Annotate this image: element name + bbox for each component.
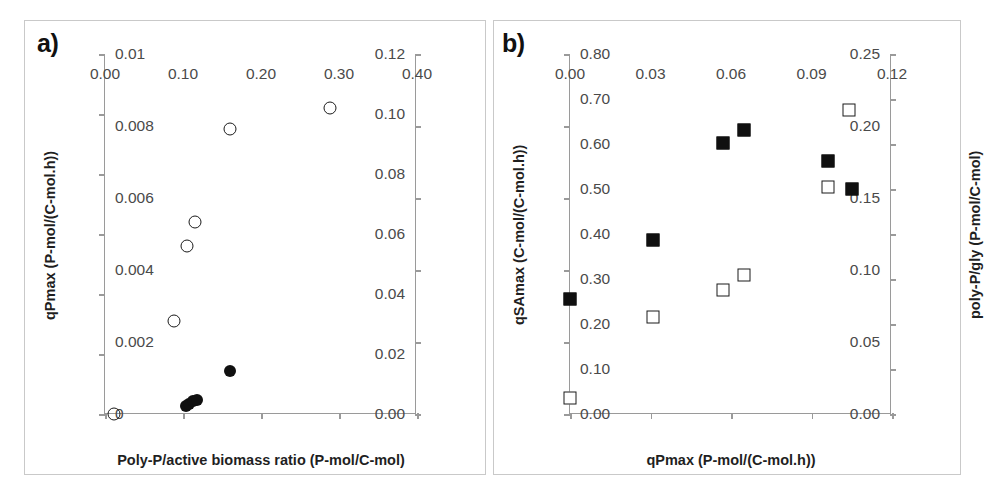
panel-a-y-left-tick-label: 0.04 bbox=[375, 286, 405, 302]
panel-a-data-point-open-circle bbox=[108, 408, 121, 421]
panel-b-y-right-tick bbox=[890, 234, 896, 236]
panel-b-y-right-tick bbox=[890, 99, 896, 101]
panel-b-y-left-tick-label: 0.25 bbox=[850, 46, 880, 62]
panel-b-x-tick-label: 0.09 bbox=[796, 66, 826, 82]
panel-b-y-right-tick-label: 0.50 bbox=[580, 181, 610, 197]
panel-b-x-tick-label: 0.03 bbox=[635, 66, 665, 82]
panel-a-data-point-open-circle bbox=[167, 315, 180, 328]
panel-a-y-right-tick bbox=[415, 54, 421, 56]
panel-b-y-right-tick bbox=[890, 144, 896, 146]
panel-a-y-left-tick-label: 0.02 bbox=[375, 346, 405, 362]
panel-a-y-left-tick-label: 0.08 bbox=[375, 166, 405, 182]
panel-b-plot-area: 0.000.050.100.150.200.250.000.100.200.30… bbox=[569, 54, 891, 414]
panel-a-x-tick-label: 0.20 bbox=[246, 66, 276, 82]
panel-a-y-axis-left-title: qPmax (P-mol/(C-mol.h)) bbox=[43, 150, 58, 319]
panel-a-y-left-tick-label: 0.10 bbox=[375, 106, 405, 122]
panel-b-data-point-open-square bbox=[821, 180, 834, 193]
panel-b-y-left-tick bbox=[564, 270, 570, 272]
panel-b-data-point-filled-square bbox=[716, 137, 729, 150]
panel-b-y-axis-right-title: poly-P/gly (P-mol/C-mol) bbox=[968, 151, 983, 319]
panel-a-x-tick bbox=[261, 413, 263, 419]
panel-b-y-right-tick bbox=[890, 369, 896, 371]
panel-b-y-right-tick-label: 0.10 bbox=[580, 361, 610, 377]
panel-a-y-right-tick bbox=[415, 126, 421, 128]
panel-a-y-left-tick-label: 0.06 bbox=[375, 226, 405, 242]
panel-b-y-left-tick-label: 0.10 bbox=[850, 262, 880, 278]
panel-a-data-point-open-circle bbox=[188, 216, 201, 229]
panel-b: b) qSAmax (C-mol/(C-mol.h)) poly-P/gly (… bbox=[493, 20, 961, 475]
panel-b-data-point-filled-square bbox=[821, 154, 834, 167]
panel-b-data-point-open-square bbox=[647, 311, 660, 324]
panel-a-letter: a) bbox=[37, 29, 58, 58]
panel-b-x-tick bbox=[570, 413, 572, 419]
panel-a-x-tick-label: 0.10 bbox=[168, 66, 198, 82]
panel-b-data-point-open-square bbox=[716, 284, 729, 297]
panel-b-y-left-tick-label: 0.00 bbox=[850, 406, 880, 422]
panel-b-y-right-tick-label: 0.80 bbox=[580, 46, 610, 62]
panel-a-y-left-tick bbox=[99, 294, 105, 296]
panel-b-y-right-tick-label: 0.60 bbox=[580, 136, 610, 152]
panel-b-data-point-filled-square bbox=[647, 233, 660, 246]
panel-a-x-tick-label: 0.30 bbox=[324, 66, 354, 82]
panel-b-x-tick-label: 0.00 bbox=[555, 66, 585, 82]
panel-a-y-left-tick bbox=[99, 354, 105, 356]
panel-b-x-tick-label: 0.06 bbox=[716, 66, 746, 82]
panel-a-y-left-tick bbox=[99, 234, 105, 236]
panel-b-x-axis-title: qPmax (P-mol/(C-mol.h)) bbox=[646, 453, 815, 468]
panel-a-y-right-tick bbox=[415, 270, 421, 272]
panel-a-x-tick bbox=[183, 413, 185, 419]
panel-b-x-tick bbox=[651, 413, 653, 419]
panel-b-data-point-open-square bbox=[738, 268, 751, 281]
panel-a-y-right-tick bbox=[415, 198, 421, 200]
panel-a-y-left-tick bbox=[99, 114, 105, 116]
panel-b-y-right-tick bbox=[890, 324, 896, 326]
panel-b-y-right-tick-label: 0.70 bbox=[580, 91, 610, 107]
panel-a-x-tick bbox=[339, 413, 341, 419]
panel-a-y-left-tick-label: 0.00 bbox=[375, 406, 405, 422]
panel-a-x-tick-label: 0.00 bbox=[90, 66, 120, 82]
panel-b-letter: b) bbox=[502, 29, 525, 58]
panel-b-x-tick bbox=[892, 413, 894, 419]
panel-b-data-point-filled-square bbox=[845, 183, 858, 196]
panel-a-x-tick-label: 0.40 bbox=[402, 66, 432, 82]
panel-a-x-tick bbox=[417, 413, 419, 419]
panel-b-y-left-tick bbox=[564, 54, 570, 56]
panel-a-y-right-tick-label: 0.01 bbox=[115, 46, 145, 62]
panel-a-y-right-tick-label: 0.002 bbox=[115, 334, 154, 350]
panel-b-y-left-tick bbox=[564, 198, 570, 200]
panel-a-data-point-filled-circle bbox=[224, 365, 236, 377]
panel-a-y-left-tick bbox=[99, 174, 105, 176]
panel-a-y-left-tick-label: 0.12 bbox=[375, 46, 405, 62]
figure-container: a) qPmax (P-mol/(C-mol.h)) mATP (mol ATP… bbox=[0, 0, 985, 503]
panel-b-data-point-open-square bbox=[564, 392, 577, 405]
panel-b-x-tick bbox=[812, 413, 814, 419]
panel-b-x-tick bbox=[731, 413, 733, 419]
panel-a-data-point-open-circle bbox=[180, 240, 193, 253]
panel-b-data-point-open-square bbox=[843, 104, 856, 117]
panel-b-y-left-tick-label: 0.20 bbox=[850, 118, 880, 134]
panel-a-data-point-open-circle bbox=[223, 123, 236, 136]
panel-b-x-tick-label: 0.12 bbox=[877, 66, 907, 82]
panel-b-y-axis-left-title: qSAmax (C-mol/(C-mol.h)) bbox=[512, 145, 527, 325]
panel-a: a) qPmax (P-mol/(C-mol.h)) mATP (mol ATP… bbox=[24, 20, 486, 475]
panel-b-y-right-tick-label: 0.20 bbox=[580, 316, 610, 332]
panel-a-data-point-open-circle bbox=[323, 102, 336, 115]
panel-b-y-right-tick bbox=[890, 189, 896, 191]
panel-a-x-tick bbox=[105, 413, 107, 419]
panel-a-data-point-filled-circle bbox=[191, 394, 203, 406]
panel-b-y-right-tick-label: 0.30 bbox=[580, 271, 610, 287]
panel-b-y-left-tick bbox=[564, 126, 570, 128]
panel-a-y-right-tick-label: 0.004 bbox=[115, 262, 154, 278]
panel-a-y-left-tick bbox=[99, 54, 105, 56]
panel-b-y-right-tick bbox=[890, 279, 896, 281]
panel-b-y-right-tick-label: 0.00 bbox=[580, 406, 610, 422]
panel-a-y-right-tick bbox=[415, 342, 421, 344]
panel-a-y-right-tick-label: 0.006 bbox=[115, 190, 154, 206]
panel-a-x-axis-title: Poly-P/active biomass ratio (P-mol/C-mol… bbox=[117, 453, 405, 468]
panel-b-data-point-filled-square bbox=[738, 124, 751, 137]
panel-b-y-left-tick bbox=[564, 342, 570, 344]
panel-a-plot-area: 0.000.020.040.060.080.100.1200.0020.0040… bbox=[104, 54, 416, 414]
panel-a-y-right-tick-label: 0.008 bbox=[115, 118, 154, 134]
panel-b-y-right-tick bbox=[890, 54, 896, 56]
panel-b-data-point-filled-square bbox=[564, 292, 577, 305]
